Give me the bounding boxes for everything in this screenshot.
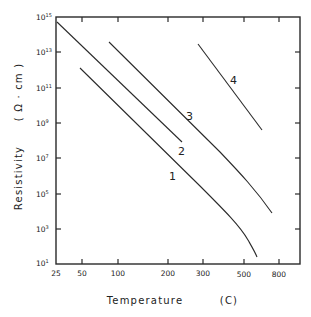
chart-canvas: 25 50 100 200 300 500 800 1015 1013 1011… bbox=[0, 0, 311, 317]
curve-label-4: 4 bbox=[230, 74, 237, 87]
y-axis-unit: ( Ω · cm ) bbox=[13, 63, 24, 122]
y-tick-labels: 1015 1013 1011 109 107 105 103 101 bbox=[36, 12, 52, 269]
y-tick-label: 101 bbox=[36, 258, 49, 269]
data-curves bbox=[57, 22, 272, 257]
curve-label-2: 2 bbox=[178, 145, 185, 158]
curve-4 bbox=[198, 44, 262, 130]
x-tick-labels: 25 50 100 200 300 500 800 bbox=[51, 269, 286, 279]
y-tick-label: 105 bbox=[36, 189, 49, 200]
y-tick-label: 1015 bbox=[36, 12, 52, 23]
curve-2 bbox=[57, 22, 182, 142]
y-tick-label: 103 bbox=[36, 224, 49, 235]
curve-3 bbox=[109, 42, 272, 213]
x-tick-label: 300 bbox=[196, 269, 211, 278]
y-tick-label: 1011 bbox=[36, 83, 52, 94]
plot-frame bbox=[56, 17, 300, 264]
x-tick-label: 25 bbox=[51, 269, 61, 278]
y-tick-label: 1013 bbox=[36, 47, 52, 58]
x-tick-label: 50 bbox=[77, 269, 87, 278]
x-axis-title: Temperature bbox=[106, 295, 184, 306]
y-axis-ticks bbox=[56, 52, 300, 229]
x-tick-label: 800 bbox=[272, 270, 287, 279]
y-tick-label: 109 bbox=[36, 118, 49, 129]
curve-label-1: 1 bbox=[169, 170, 176, 183]
curve-label-3: 3 bbox=[186, 110, 193, 123]
x-tick-label: 500 bbox=[237, 270, 252, 279]
curve-labels: 1 2 3 4 bbox=[169, 74, 237, 183]
x-tick-label: 100 bbox=[111, 269, 126, 278]
x-tick-label: 200 bbox=[161, 269, 176, 278]
y-tick-label: 107 bbox=[36, 153, 49, 164]
y-axis-title: Resistivity bbox=[13, 146, 24, 210]
y-axis-title-group: Resistivity ( Ω · cm ) bbox=[13, 63, 24, 210]
x-axis-unit: (C) bbox=[220, 295, 238, 306]
